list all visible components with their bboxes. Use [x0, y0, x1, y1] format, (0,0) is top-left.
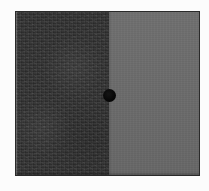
- center-dot-marker: [103, 89, 116, 102]
- left-edge-highlight: [16, 12, 18, 175]
- dark-textured-region: [16, 12, 109, 175]
- flat-gray-region: [109, 12, 199, 175]
- panel-bottom-shadow: [16, 172, 199, 175]
- image-canvas: [0, 0, 209, 191]
